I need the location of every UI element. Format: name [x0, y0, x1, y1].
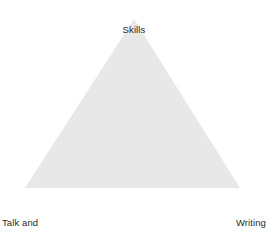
vertex-label-writing-line1: Writing — [224, 217, 266, 228]
vertex-label-skills-text: Skills — [0, 24, 268, 35]
vertex-label-talk-line1: Talk and — [2, 217, 38, 228]
vertex-label-writing-outcomes: Writing outcomes — [224, 195, 266, 237]
figure-container: Skills Talk and thought Writing outcomes — [0, 0, 268, 237]
vertex-label-skills: Skills — [0, 2, 268, 57]
vertex-label-talk-and-thought: Talk and thought — [2, 195, 38, 237]
